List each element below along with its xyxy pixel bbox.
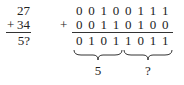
decimal-plus-sign: + [7,18,14,32]
bit: 0 [85,4,97,18]
low-nibble-label: ? [141,64,155,78]
bit: 1 [134,4,146,18]
bit: 0 [73,34,85,48]
bit: 1 [147,4,159,18]
binary-result: 0 1 0 1 1 0 1 1 [73,34,171,48]
bit: 0 [134,34,146,48]
bit: 0 [159,18,171,32]
decimal-result: 5? [8,34,30,48]
decimal-addend-1: 27 [8,4,30,18]
bit: 0 [122,4,134,18]
bit: 1 [110,18,122,32]
bit: 1 [110,34,122,48]
bit: 0 [85,18,97,32]
bit: 0 [73,4,85,18]
bit: 1 [134,18,146,32]
binary-column: 0 0 1 0 0 1 1 1 0 0 1 1 0 1 0 0 0 1 0 1 … [73,4,171,48]
binary-addend-2: 0 0 1 1 0 1 0 0 [73,18,171,32]
bit: 0 [122,18,134,32]
binary-plus-sign: + [60,18,67,32]
bit: 1 [147,34,159,48]
underbrace-low-nibble-icon [123,49,173,61]
bit: 0 [73,18,85,32]
bit: 0 [147,18,159,32]
binary-addend-1: 0 0 1 0 0 1 1 1 [73,4,171,18]
bit: 1 [85,34,97,48]
underbrace-high-nibble-icon [73,49,123,61]
bit: 0 [98,34,110,48]
bit: 1 [98,18,110,32]
bit: 1 [122,34,134,48]
bit: 0 [110,4,122,18]
bit: 1 [159,34,171,48]
bit: 1 [98,4,110,18]
decimal-sum-line [6,32,31,33]
bit: 1 [159,4,171,18]
binary-sum-line [72,32,173,33]
high-nibble-label: 5 [91,64,105,78]
